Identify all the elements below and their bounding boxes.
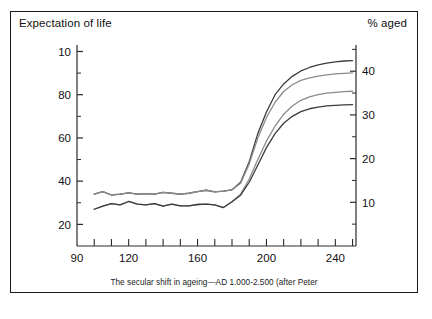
y-tick-label-left: 20 bbox=[58, 219, 71, 231]
x-tick-label: 120 bbox=[119, 252, 138, 264]
y-tick-label-right: 40 bbox=[362, 65, 375, 77]
series-line-curve-1-top bbox=[94, 61, 352, 195]
y-tick-label-left: 80 bbox=[58, 89, 71, 101]
y-tick-label-left: 10 bbox=[58, 46, 71, 58]
x-tick-label: 160 bbox=[188, 252, 207, 264]
y-tick-label-left: 60 bbox=[58, 132, 71, 144]
series-line-curve-2 bbox=[94, 73, 352, 195]
y-tick-label-right: 30 bbox=[362, 109, 375, 121]
y-tick-label-left: 40 bbox=[58, 175, 71, 187]
y-tick-label-right: 10 bbox=[362, 197, 375, 209]
x-tick-label: 200 bbox=[257, 252, 276, 264]
axes bbox=[77, 45, 356, 246]
figure-frame: Expectation of life % aged 2040608010102… bbox=[10, 11, 418, 293]
y-tick-label-right: 20 bbox=[362, 153, 375, 165]
line-chart: 20406080101020304090120160200240 bbox=[11, 12, 419, 294]
figure-caption: The secular shift in ageing—AD 1.000-2.5… bbox=[11, 278, 417, 287]
tick-labels: 20406080101020304090120160200240 bbox=[58, 46, 375, 264]
x-tick-label: 90 bbox=[71, 252, 84, 264]
x-tick-label: 240 bbox=[326, 252, 345, 264]
data-series bbox=[94, 61, 352, 210]
